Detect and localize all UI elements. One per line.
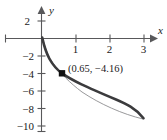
x-tick-label-2: 2 [107,43,113,55]
x-tick-label-3: 3 [141,43,147,55]
x-axis-arrow-icon [150,35,158,43]
y-tick-label-minus-6: −6 [22,85,34,97]
y-tick-label-minus-2: −2 [22,50,34,62]
point-annotation-label: (0.65, −4.16) [68,63,123,75]
y-tick-label-minus-8: −8 [22,103,34,115]
y-tick-label-minus-10: −10 [17,120,35,132]
chart-figure: y x 1 2 3 2 −2 −4 −6 −8 −10 (0.65, −4.16… [0,0,167,140]
x-tick-label-1: 1 [73,43,79,55]
curve-secondary-thin [43,38,144,119]
y-tick-label-minus-4: −4 [22,68,34,80]
y-tick-label-2: 2 [25,15,31,27]
x-axis-label: x [157,24,163,36]
data-point-marker[interactable] [59,70,65,76]
chart-plot-area: y x 1 2 3 2 −2 −4 −6 −8 −10 (0.65, −4.16… [0,0,167,140]
y-axis-arrow-icon [38,6,46,14]
y-axis-label: y [48,4,54,16]
curve-main [42,38,143,119]
